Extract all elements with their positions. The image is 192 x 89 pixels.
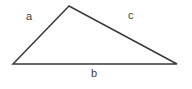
side-label-a: a <box>26 11 32 22</box>
side-label-b: b <box>91 68 97 79</box>
triangle-outline <box>13 6 177 64</box>
triangle-figure: a c b <box>0 0 192 89</box>
side-label-c: c <box>128 10 134 21</box>
